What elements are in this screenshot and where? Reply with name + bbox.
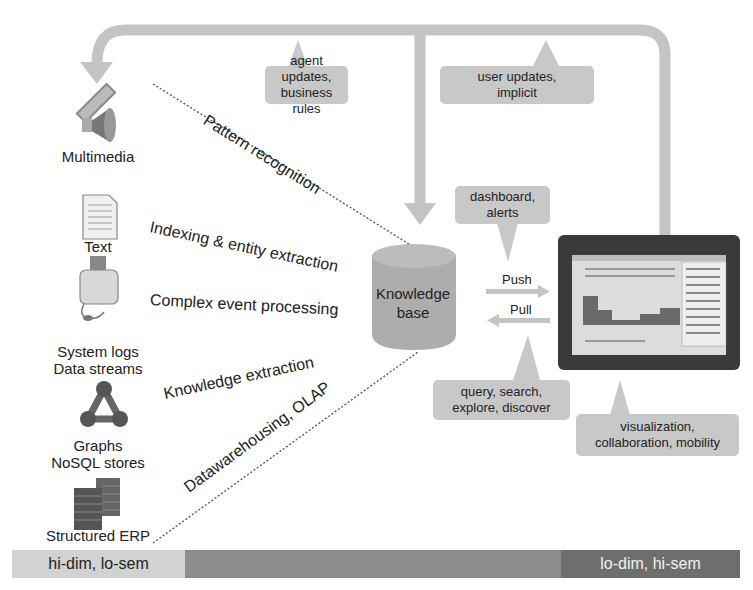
source-label-text: Text <box>84 238 112 255</box>
scale-band-left-label: hi-dim, lo-sem <box>48 555 148 573</box>
callout-user-updates: user updates, implicit <box>440 66 594 104</box>
callout-pointer-query <box>513 335 540 380</box>
callout-pointer-user <box>532 40 560 68</box>
scale-band-right: lo-dim, hi-sem <box>561 550 740 578</box>
callout-agent-updates-line1: agent updates, <box>265 53 348 85</box>
graph-network-icon <box>80 381 128 427</box>
callout-visualization: visualization, collaboration, mobility <box>576 414 739 456</box>
toaster-device-icon <box>80 256 118 321</box>
callout-dashboard-line1: dashboard, alerts <box>455 189 550 221</box>
tablet-dashboard-screenshot <box>558 235 740 370</box>
source-label-graphs: Graphs <box>73 437 122 454</box>
callout-query-search: query, search, explore, discover <box>433 380 570 420</box>
callout-agent-updates-line2: business rules <box>265 85 348 117</box>
source-label-data-streams: Data streams <box>53 360 142 377</box>
callout-user-updates-line1: user updates, <box>478 69 557 85</box>
callout-dashboard-alerts: dashboard, alerts <box>455 186 550 224</box>
feedback-arrowhead-left <box>80 62 113 84</box>
scale-band-right-label: lo-dim, hi-sem <box>600 555 700 573</box>
callout-visualization-line2: collaboration, mobility <box>595 435 720 451</box>
scale-band-left: hi-dim, lo-sem <box>12 550 185 578</box>
source-label-system-logs: System logs <box>57 343 139 360</box>
scale-band-middle <box>185 550 561 578</box>
knowledge-base-label: Knowledge base <box>370 284 456 322</box>
multimedia-icon <box>75 82 116 142</box>
feedback-arrowhead-down <box>404 203 436 225</box>
callout-pointer-visualization <box>610 380 630 415</box>
feedback-loop-arrow <box>97 30 665 235</box>
document-icon <box>83 195 117 239</box>
server-stack-icon <box>74 478 120 530</box>
callout-agent-updates: agent updates, business rules <box>265 66 348 104</box>
source-label-nosql: NoSQL stores <box>51 454 145 471</box>
callout-query-line1: query, search, <box>461 384 542 400</box>
push-label: Push <box>502 272 532 287</box>
pull-label: Pull <box>510 302 532 317</box>
callout-visualization-line1: visualization, <box>620 419 694 435</box>
source-label-multimedia: Multimedia <box>62 148 135 165</box>
knowledge-base-line2: base <box>370 303 456 322</box>
source-label-erp: Structured ERP <box>46 527 150 544</box>
callout-pointer-dashboard <box>497 223 518 262</box>
callout-query-line2: explore, discover <box>452 400 550 416</box>
knowledge-base-line1: Knowledge <box>370 284 456 303</box>
callout-user-updates-line2: implicit <box>497 85 537 101</box>
